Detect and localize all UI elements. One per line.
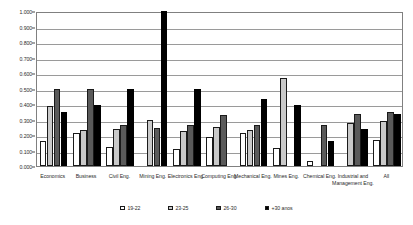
bar (173, 149, 180, 166)
bar (280, 78, 287, 166)
bar-group (307, 13, 335, 166)
bar (180, 131, 187, 166)
bar (240, 133, 247, 166)
y-axis-tick-mark (32, 27, 35, 28)
bar (194, 89, 201, 167)
legend-item[interactable]: 23-25 (168, 205, 188, 211)
bar-group (106, 13, 134, 166)
legend-label: 23-25 (175, 205, 188, 211)
legend-label: 26-30 (223, 205, 236, 211)
bar-chart: 1.0000.9000.8000.7000.6000.5000.4000.300… (0, 0, 413, 225)
bar (247, 130, 254, 166)
bar (294, 105, 301, 166)
y-axis-tick-mark (32, 151, 35, 152)
bar (113, 129, 120, 166)
bar-group (206, 13, 234, 166)
bar (54, 89, 61, 167)
bar (80, 130, 87, 166)
bar (161, 11, 168, 166)
bar (380, 121, 387, 166)
bar-group (140, 13, 168, 166)
bar-group (240, 13, 268, 166)
y-axis-tick-label: 0.200 (0, 133, 32, 139)
bar (273, 148, 280, 166)
bar (94, 105, 101, 166)
y-axis-tick-mark (32, 43, 35, 44)
bar (373, 140, 380, 166)
legend-item[interactable]: +30 anos (265, 205, 293, 211)
y-axis-tick-mark (32, 105, 35, 106)
bars-layer (37, 13, 402, 166)
bar (106, 147, 113, 166)
bar (154, 128, 161, 166)
bar (254, 125, 261, 166)
bar (220, 115, 227, 166)
bar-group (340, 13, 368, 166)
bar (147, 120, 154, 166)
x-axis-tick-label: All (365, 173, 408, 180)
y-axis-tick-mark (32, 167, 35, 168)
bar (361, 129, 368, 166)
plot-area (36, 12, 403, 167)
legend-label: 19-22 (127, 205, 140, 211)
bar (213, 127, 220, 166)
bar-group (273, 13, 301, 166)
bar (120, 125, 127, 166)
y-axis-tick-label: 0.100 (0, 149, 32, 155)
x-axis: EconomicsBusinessCivil Eng.Mining Eng.El… (0, 169, 413, 205)
y-axis-tick-mark (32, 136, 35, 137)
bar (73, 133, 80, 166)
bar (61, 112, 68, 166)
bar (187, 125, 194, 166)
legend-swatch-icon (168, 206, 173, 211)
bar (387, 112, 394, 166)
legend-item[interactable]: 19-22 (120, 205, 140, 211)
bar (347, 123, 354, 166)
y-axis-tick-label: 0.900 (0, 25, 32, 31)
bar (394, 114, 401, 166)
legend-label: +30 anos (272, 205, 293, 211)
bar (354, 114, 361, 166)
bar (307, 161, 314, 166)
bar (328, 141, 335, 166)
bar (127, 89, 134, 167)
bar (321, 125, 328, 166)
legend: 19-2223-2526-30+30 anos (0, 205, 413, 219)
y-axis-tick-label: 1.000 (0, 9, 32, 15)
y-axis-tick-label: 0.600 (0, 71, 32, 77)
bar-group (73, 13, 101, 166)
y-axis-tick-mark (32, 120, 35, 121)
y-axis-tick-label: 0.400 (0, 102, 32, 108)
y-axis-tick-mark (32, 58, 35, 59)
legend-swatch-icon (216, 206, 221, 211)
bar (87, 89, 94, 167)
y-axis-tick-label: 0.500 (0, 87, 32, 93)
y-axis-tick-label: 0.300 (0, 118, 32, 124)
y-axis-tick-mark (32, 89, 35, 90)
y-axis-tick-mark (32, 74, 35, 75)
bar-group (373, 13, 401, 166)
y-axis-tick-label: 0.700 (0, 56, 32, 62)
legend-item[interactable]: 26-30 (216, 205, 236, 211)
y-axis-tick-label: 0.800 (0, 40, 32, 46)
legend-swatch-icon (120, 206, 125, 211)
bar-group (40, 13, 68, 166)
bar (206, 137, 213, 166)
bar (40, 141, 47, 166)
y-axis-tick-mark (32, 12, 35, 13)
bar-group (173, 13, 201, 166)
legend-swatch-icon (265, 206, 270, 211)
bar (47, 106, 54, 166)
bar (261, 99, 268, 166)
